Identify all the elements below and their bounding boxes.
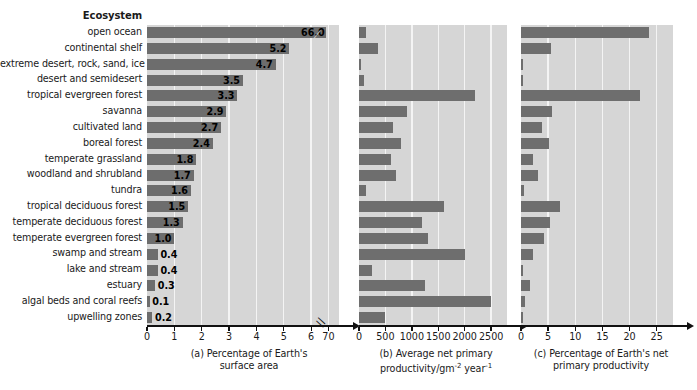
caption-c: (c) Percentage of Earth's netprimary pro…	[521, 348, 681, 373]
ecosystem-label-4: tropical evergreen forest	[0, 87, 146, 103]
x-tick-b-2000	[464, 327, 465, 331]
x-tick-a-6	[311, 327, 312, 331]
caption-c-line-1: primary productivity	[521, 360, 681, 372]
bar-b-3	[359, 75, 364, 86]
bar-c-18	[521, 312, 523, 323]
x-tick-a-70	[328, 327, 329, 331]
bar-value-a-4: 3.3	[217, 90, 234, 101]
x-tick-c-5	[547, 327, 548, 331]
x-tick-label-c-25: 25	[651, 331, 663, 342]
panel-b-net-primary-productivity: (b) Average net primaryproductivity/gm-2…	[359, 0, 513, 390]
x-tick-label-a-6: 6	[308, 331, 314, 342]
panel-a-surface-area: 66.0/5.24.73.53.32.92.72.41.81.71.61.51.…	[147, 0, 351, 390]
ecosystem-label-18: upwelling zones	[0, 309, 146, 325]
x-tick-b-1000	[411, 327, 412, 331]
x-tick-label-a-70: 70	[322, 331, 334, 342]
caption-b-line-0: (b) Average net primary	[359, 348, 513, 360]
figure-ecosystem-productivity: Ecosystem open oceancontinental shelfext…	[0, 0, 697, 390]
plot-area-b	[359, 25, 507, 325]
gridline-a-4	[256, 25, 257, 325]
bar-a-0	[147, 27, 326, 38]
x-tick-label-a-5: 5	[281, 331, 287, 342]
gridline-a-3	[228, 25, 229, 325]
ecosystem-label-0: open ocean	[0, 24, 146, 40]
panel-c-percentage-net-primary-productivity: (c) Percentage of Earth's netprimary pro…	[521, 0, 681, 390]
x-tick-label-b-1500: 1500	[426, 331, 450, 342]
bar-a-15	[147, 265, 158, 276]
gridline-b-2000	[464, 25, 465, 325]
x-tick-a-2	[201, 327, 202, 331]
ecosystem-label-list: open oceancontinental shelfextreme deser…	[0, 24, 146, 324]
bar-c-0	[521, 27, 649, 38]
bar-value-a-10: 1.6	[171, 185, 188, 196]
ecosystem-label-12: temperate deciduous forest	[0, 214, 146, 230]
ecosystem-label-15: lake and stream	[0, 261, 146, 277]
bar-c-2	[521, 59, 523, 70]
ecosystem-label-8: temperate grassland	[0, 151, 146, 167]
bar-b-13	[359, 233, 428, 244]
gridline-a-70	[328, 25, 329, 325]
bar-c-17	[521, 296, 525, 307]
gridline-c-20	[629, 25, 630, 325]
x-tick-label-c-20: 20	[623, 331, 635, 342]
x-tick-label-c-0: 0	[518, 331, 524, 342]
bar-value-a-13: 1.0	[155, 233, 172, 244]
x-tick-label-a-1: 1	[171, 331, 177, 342]
bar-value-a-2: 4.7	[256, 59, 273, 70]
bar-value-a-12: 1.3	[163, 217, 180, 228]
bar-b-11	[359, 201, 444, 212]
x-tick-label-c-10: 10	[569, 331, 581, 342]
bar-value-a-5: 2.9	[207, 106, 224, 117]
x-tick-c-0	[520, 327, 521, 331]
x-tick-a-5	[283, 327, 284, 331]
plot-area-c	[521, 25, 673, 325]
bar-b-6	[359, 122, 393, 133]
x-axis-line-c	[521, 325, 687, 327]
x-tick-label-c-15: 15	[596, 331, 608, 342]
bar-value-a-17: 0.1	[152, 296, 169, 307]
gridline-a-5	[283, 25, 284, 325]
caption-a-line-0: (a) Percentage of Earth's	[147, 348, 351, 360]
bar-c-15	[521, 265, 523, 276]
x-tick-b-2500	[490, 327, 491, 331]
caption-c-line-0: (c) Percentage of Earth's net	[521, 348, 681, 360]
bar-c-5	[521, 106, 552, 117]
gridline-c-5	[547, 25, 548, 325]
bar-value-a-3: 3.5	[223, 75, 240, 86]
x-tick-c-15	[602, 327, 603, 331]
ecosystem-column-header: Ecosystem	[0, 8, 146, 24]
bar-c-7	[521, 138, 549, 149]
bar-a-17	[147, 296, 150, 307]
caption-a: (a) Percentage of Earth'ssurface area	[147, 348, 351, 373]
ecosystem-label-6: cultivated land	[0, 119, 146, 135]
ecosystem-label-16: estuary	[0, 277, 146, 293]
x-tick-c-20	[629, 327, 630, 331]
bar-b-14	[359, 249, 465, 260]
bar-value-a-1: 5.2	[269, 43, 286, 54]
bar-c-11	[521, 201, 560, 212]
x-tick-label-c-5: 5	[545, 331, 551, 342]
bar-c-16	[521, 280, 530, 291]
bar-value-a-18: 0.2	[155, 312, 172, 323]
bar-b-2	[359, 59, 361, 70]
x-tick-b-1500	[438, 327, 439, 331]
x-tick-a-4	[256, 327, 257, 331]
x-tick-label-b-1000: 1000	[400, 331, 424, 342]
x-tick-c-25	[656, 327, 657, 331]
bar-b-12	[359, 217, 422, 228]
ecosystem-label-2: extreme desert, rock, sand, ice	[0, 56, 146, 72]
caption-b: (b) Average net primaryproductivity/gm-2…	[359, 348, 513, 376]
ecosystem-label-17: algal beds and coral reefs	[0, 293, 146, 309]
gridline-b-1500	[438, 25, 439, 325]
bar-b-17	[359, 296, 491, 307]
bar-a-18	[147, 312, 152, 323]
bar-b-4	[359, 90, 475, 101]
x-tick-label-a-3: 3	[226, 331, 232, 342]
x-tick-a-0	[146, 327, 147, 331]
x-tick-b-0	[358, 327, 359, 331]
bar-a-16	[147, 280, 155, 291]
bar-b-7	[359, 138, 401, 149]
bar-b-10	[359, 185, 366, 196]
x-axis-line-b	[359, 325, 521, 327]
bar-b-18	[359, 312, 385, 323]
